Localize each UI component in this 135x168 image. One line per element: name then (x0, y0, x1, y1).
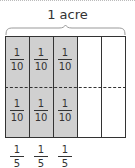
fraction-bar (34, 59, 48, 60)
column-label-3: 1 5 (53, 144, 77, 168)
denominator: 5 (62, 158, 68, 168)
numerator: 1 (14, 47, 20, 58)
cell-label-top-3: 1 10 (53, 47, 77, 72)
cell-label-bottom-3: 1 10 (53, 98, 77, 123)
dashed-row-divider (5, 87, 126, 88)
denominator: 10 (59, 61, 72, 72)
fraction-bar (10, 156, 24, 157)
curly-brace-icon (5, 25, 126, 35)
fraction-bar (10, 110, 24, 111)
denominator: 10 (59, 112, 72, 123)
cell-label-bottom-1: 1 10 (5, 98, 29, 123)
cell-label-top-2: 1 10 (29, 47, 53, 72)
numerator: 1 (14, 144, 20, 155)
fraction-bar (58, 110, 72, 111)
denominator: 10 (11, 61, 24, 72)
column-label-2: 1 5 (29, 144, 53, 168)
numerator: 1 (62, 144, 68, 155)
cell-label-top-1: 1 10 (5, 47, 29, 72)
fraction-bar (58, 59, 72, 60)
numerator: 1 (38, 98, 44, 109)
fraction-bar (10, 59, 24, 60)
denominator: 10 (11, 112, 24, 123)
diagram-title: 1 acre (0, 8, 135, 22)
column-label-1: 1 5 (5, 144, 29, 168)
fraction-bar (34, 156, 48, 157)
numerator: 1 (38, 47, 44, 58)
denominator: 10 (35, 112, 48, 123)
denominator: 5 (14, 158, 20, 168)
numerator: 1 (14, 98, 20, 109)
top-dotted-border (0, 0, 135, 1)
denominator: 5 (38, 158, 44, 168)
fraction-bar (58, 156, 72, 157)
numerator: 1 (62, 98, 68, 109)
fraction-bar (34, 110, 48, 111)
numerator: 1 (62, 47, 68, 58)
cell-label-bottom-2: 1 10 (29, 98, 53, 123)
denominator: 10 (35, 61, 48, 72)
numerator: 1 (38, 144, 44, 155)
